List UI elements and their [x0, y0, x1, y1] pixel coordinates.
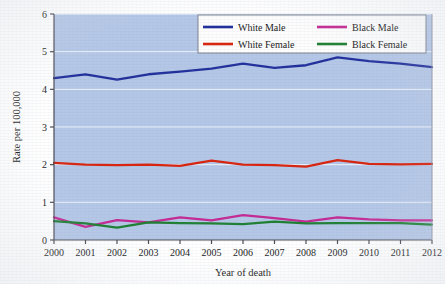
x-axis-title: Year of death: [215, 267, 272, 278]
x-tick-label-2002: 2002: [107, 247, 127, 258]
x-tick-label-2005: 2005: [202, 247, 222, 258]
chart-legend[interactable]: White MaleBlack MaleWhite FemaleBlack Fe…: [198, 15, 426, 53]
x-tick-label-2007: 2007: [265, 247, 285, 258]
x-tick-label-2003: 2003: [139, 247, 159, 258]
y-axis-title: Rate per 100,000: [11, 91, 22, 163]
x-tick-label-2011: 2011: [391, 247, 411, 258]
legend-label-white-male[interactable]: White Male: [238, 22, 286, 33]
x-tick-label-2006: 2006: [233, 247, 253, 258]
x-tick-label-2010: 2010: [359, 247, 379, 258]
y-tick-label-2: 2: [42, 159, 47, 170]
legend-label-white-female[interactable]: White Female: [238, 39, 295, 50]
y-tick-label-0: 0: [42, 235, 47, 246]
x-tick-label-2004: 2004: [170, 247, 190, 258]
line-chart-figure: 0123456 20002001200220032004200520062007…: [0, 0, 445, 284]
y-tick-label-1: 1: [42, 197, 47, 208]
x-tick-label-2012: 2012: [422, 247, 442, 258]
y-tick-label-5: 5: [42, 46, 47, 57]
legend-label-black-female[interactable]: Black Female: [352, 39, 408, 50]
y-tick-label-4: 4: [42, 84, 47, 95]
legend-label-black-male[interactable]: Black Male: [352, 22, 399, 33]
x-tick-label-2000: 2000: [44, 247, 64, 258]
x-tick-label-2009: 2009: [328, 247, 348, 258]
chart-canvas: 0123456 20002001200220032004200520062007…: [0, 0, 445, 284]
x-tick-label-2008: 2008: [296, 247, 316, 258]
y-tick-label-6: 6: [42, 9, 47, 20]
y-tick-label-3: 3: [42, 122, 47, 133]
x-tick-label-2001: 2001: [76, 247, 96, 258]
